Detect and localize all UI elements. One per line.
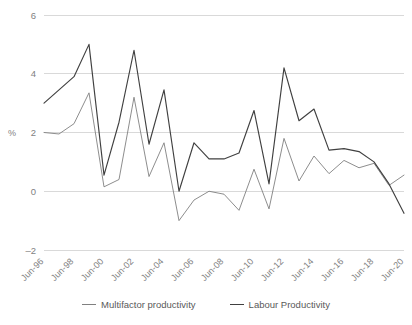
y-axis-title: % bbox=[8, 128, 16, 138]
x-axis-tick-label: Jun-08 bbox=[199, 256, 226, 283]
y-axis-tick-label: 6 bbox=[31, 10, 36, 21]
legend-item-multifactor-productivity[interactable]: Multifactor productivity bbox=[82, 300, 196, 310]
series-line-multifactor-productivity bbox=[44, 93, 404, 221]
legend-label-labour-productivity: Labour Productivity bbox=[249, 300, 330, 310]
x-axis-tick-label: Jun-20 bbox=[379, 256, 406, 283]
x-axis-tick-label: Jun-02 bbox=[109, 256, 136, 283]
x-axis-tick-label: Jun-12 bbox=[259, 256, 286, 283]
chart-legend: Multifactor productivity Labour Producti… bbox=[0, 300, 412, 310]
y-axis-tick-label: –2 bbox=[25, 245, 36, 256]
x-axis-tick-label: Jun-98 bbox=[49, 256, 76, 283]
legend-swatch-labour-productivity bbox=[230, 304, 244, 305]
x-axis-tick-label: Jun-00 bbox=[79, 256, 106, 283]
productivity-line-chart: 6420–2%Jun-96Jun-98Jun-00Jun-02Jun-04Jun… bbox=[0, 0, 412, 325]
series-line-labour-productivity bbox=[44, 44, 404, 213]
x-axis-tick-label: Jun-16 bbox=[319, 256, 346, 283]
y-axis-tick-label: 2 bbox=[31, 127, 36, 138]
legend-label-multifactor-productivity: Multifactor productivity bbox=[101, 300, 196, 310]
y-axis-tick-label: 4 bbox=[31, 68, 36, 79]
x-axis-tick-label: Jun-10 bbox=[229, 256, 256, 283]
x-axis-tick-label: Jun-18 bbox=[349, 256, 376, 283]
chart-plot-area: 6420–2%Jun-96Jun-98Jun-00Jun-02Jun-04Jun… bbox=[0, 0, 412, 300]
x-axis-tick-label: Jun-04 bbox=[139, 256, 166, 283]
x-axis-tick-label: Jun-14 bbox=[289, 256, 316, 283]
x-axis-tick-label: Jun-06 bbox=[169, 256, 196, 283]
y-axis-tick-label: 0 bbox=[31, 186, 36, 197]
x-axis-tick-label: Jun-96 bbox=[19, 256, 46, 283]
legend-item-labour-productivity[interactable]: Labour Productivity bbox=[230, 300, 330, 310]
legend-swatch-multifactor-productivity bbox=[82, 304, 96, 305]
